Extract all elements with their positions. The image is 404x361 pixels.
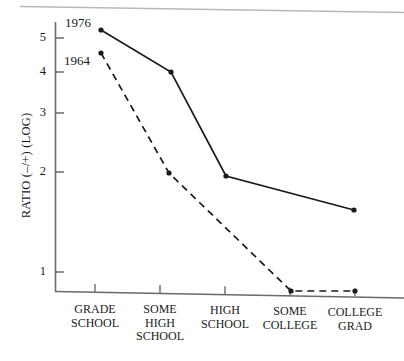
x-axis-line xyxy=(55,292,404,299)
chart-figure: RATIO (–/+) (LOG) 5 4 3 2 1 GRADE SCHOOL… xyxy=(0,0,404,361)
series-annotation-1976: 1976 xyxy=(65,15,91,31)
series-markers-1964 xyxy=(98,50,357,293)
y-tick-label-3: 3 xyxy=(26,105,46,120)
page-edge-artifact xyxy=(20,7,404,13)
series-annotation-1964: 1964 xyxy=(64,53,90,69)
series-markers-1976 xyxy=(98,27,356,212)
x-tick-label-college-grad: COLLEGE GRAD xyxy=(312,306,398,333)
y-tick-label-4: 4 xyxy=(26,64,46,79)
x-tick-line1: COLLEGE xyxy=(312,306,398,320)
x-tick-line3: SCHOOL xyxy=(117,330,203,344)
y-tick-label-1: 1 xyxy=(26,264,46,279)
series-line-1964 xyxy=(101,53,355,291)
y-tick-label-2: 2 xyxy=(26,164,46,179)
y-tick-marks xyxy=(55,38,64,272)
y-tick-label-5: 5 xyxy=(26,30,46,45)
x-tick-line2: GRAD xyxy=(312,320,398,334)
